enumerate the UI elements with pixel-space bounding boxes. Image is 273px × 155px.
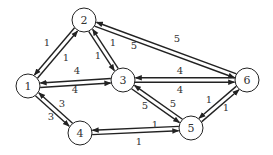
node-6: 6	[235, 68, 259, 92]
edge-weight-label: 1	[223, 102, 229, 113]
node-label: 4	[77, 127, 84, 140]
arrow-icon	[39, 93, 73, 124]
edge-weight-label: 3	[48, 111, 54, 122]
edge-3-to-1	[40, 79, 111, 83]
graph-diagram: 111155444433551111 123456	[0, 0, 273, 155]
node-2: 2	[72, 8, 96, 32]
arrow-icon	[40, 79, 111, 83]
node-label: 1	[25, 80, 32, 93]
node-layer: 123456	[16, 8, 259, 145]
edge-weight-label: 5	[174, 33, 180, 44]
edge-4-to-5	[92, 131, 179, 135]
edge-weight-label: 1	[110, 37, 116, 48]
arrow-icon	[92, 126, 179, 130]
node-label: 2	[81, 14, 88, 27]
node-1: 1	[16, 74, 40, 98]
edge-weight-label: 5	[142, 100, 148, 111]
arrow-icon	[96, 22, 236, 74]
edge-weight-label: 4	[72, 84, 78, 95]
node-5: 5	[179, 116, 203, 140]
node-3: 3	[111, 68, 135, 92]
node-4: 4	[68, 121, 92, 145]
edge-weight-label: 4	[177, 84, 183, 95]
edge-weight-label: 1	[206, 94, 212, 105]
edge-4-to-1	[39, 93, 73, 124]
node-label: 3	[120, 74, 127, 87]
edge-weight-label: 5	[170, 98, 176, 109]
edge-weight-label: 1	[63, 52, 69, 63]
edge-weight-label: 1	[152, 119, 158, 130]
edge-weight-label: 4	[177, 65, 183, 76]
edge-weight-label: 4	[74, 65, 80, 76]
node-label: 6	[244, 74, 251, 87]
node-label: 5	[188, 122, 195, 135]
edge-weight-label: 1	[95, 50, 101, 61]
arrow-icon	[92, 131, 179, 135]
arrow-icon	[199, 86, 236, 118]
edge-6-to-5	[199, 86, 236, 118]
edge-6-to-2	[96, 22, 236, 74]
edge-weight-label: 1	[44, 37, 50, 48]
edge-5-to-4	[92, 126, 179, 130]
edge-weight-label: 5	[131, 40, 137, 51]
edge-weight-label: 3	[59, 98, 65, 109]
edge-weight-label: 1	[136, 136, 142, 147]
